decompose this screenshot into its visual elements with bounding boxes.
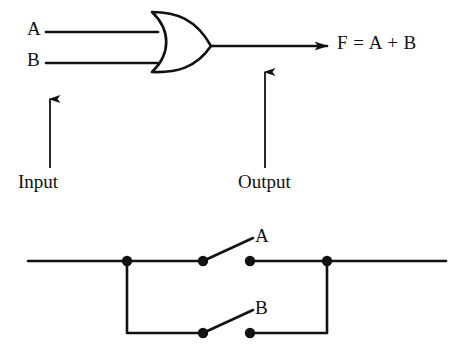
switch-a-blade[interactable] — [203, 238, 253, 261]
node-switch-b-contact — [245, 328, 255, 338]
gate-input-label-a: A — [27, 19, 41, 38]
branch-b-left-wire — [127, 261, 203, 333]
circuit-nodes — [122, 256, 332, 338]
gate-input-wires — [46, 32, 158, 63]
gate-input-label-b: B — [27, 50, 40, 69]
switch-b-blade[interactable] — [203, 310, 253, 333]
input-annotation-label: Input — [18, 172, 58, 191]
switch-label-b: B — [255, 298, 268, 317]
node-switch-a-pivot — [198, 256, 208, 266]
node-right-junction — [322, 256, 332, 266]
switch-circuit-wires — [28, 238, 446, 333]
or-gate-figure: A B F = A + B Input Output A B — [0, 0, 475, 350]
node-switch-b-pivot — [198, 328, 208, 338]
node-switch-a-contact — [245, 256, 255, 266]
switch-label-a: A — [255, 226, 269, 245]
or-gate-symbol — [152, 12, 211, 72]
or-gate-body — [152, 12, 211, 72]
node-left-junction — [122, 256, 132, 266]
output-annotation-label: Output — [238, 172, 291, 191]
gate-output-label: F = A + B — [337, 33, 417, 52]
